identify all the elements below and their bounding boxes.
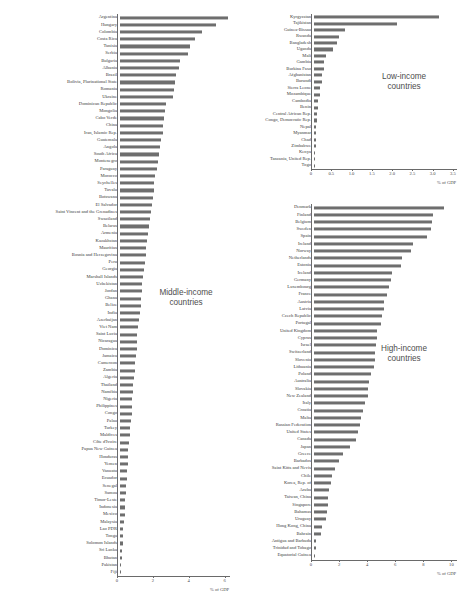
bar <box>314 264 401 267</box>
bar-track <box>314 277 460 284</box>
bar-track <box>120 194 233 201</box>
bar <box>120 499 126 502</box>
bar-category-label: Bosnia and Herzegovina <box>0 253 120 258</box>
bar-category-label: Swaziland <box>0 217 120 222</box>
bar-track <box>120 50 233 57</box>
bar-category-label: Mali <box>232 54 314 59</box>
bar <box>314 100 319 103</box>
bar-track <box>314 545 460 552</box>
bar-track <box>314 162 460 168</box>
bar-category-label: Mozambique <box>232 92 314 97</box>
bar-category-label: Palau <box>0 419 120 424</box>
bar-row: Peru <box>0 259 232 266</box>
bar-row: United Kingdom <box>232 327 463 334</box>
bar-category-label: Saint Vincent and the Grenadines <box>0 210 120 215</box>
bar-category-label: Ecuador <box>0 476 120 481</box>
x-axis-tick-label: 8 <box>422 563 424 568</box>
bar-category-label: Namibia <box>0 390 120 395</box>
bar <box>120 74 177 77</box>
bar <box>120 391 133 394</box>
bar-category-label: Austria <box>232 300 314 305</box>
bar-category-label: Sierra Leone <box>232 86 314 91</box>
bar-track <box>120 216 233 223</box>
bar-category-label: Seychelles <box>0 181 120 186</box>
bar <box>314 373 372 376</box>
bar-row: Aruba <box>232 487 463 494</box>
bar-row: India <box>0 309 232 316</box>
bar <box>120 405 133 408</box>
bar-row: Austria <box>232 298 463 305</box>
bar <box>120 527 124 530</box>
x-axis-tick-label: 6 <box>223 579 225 584</box>
bar-track <box>314 204 460 211</box>
bar-rows-high-income: DenmarkFinlandBelgiumSwedenSpainIrelandN… <box>232 204 463 560</box>
bar-row: Cyprus <box>232 335 463 342</box>
bar-row: Brazil <box>0 72 232 79</box>
bar-row: Guatemala <box>0 136 232 143</box>
bar-row: Georgia <box>0 266 232 273</box>
bar-row: Tonga <box>0 533 232 540</box>
bar-row: Pakistan <box>0 561 232 568</box>
bar-category-label: Spain <box>232 234 314 239</box>
bar <box>120 311 141 314</box>
bar-track <box>120 100 233 107</box>
bar-track <box>120 281 233 288</box>
bar <box>120 225 150 228</box>
bar-row: Portugal <box>232 320 463 327</box>
bar-track <box>120 129 233 136</box>
bar-category-label: Mongolia <box>0 109 120 114</box>
bar <box>314 453 343 456</box>
bar-category-label: Finland <box>232 213 314 218</box>
panel-title-middle-income: Middle-incomecountries <box>140 288 232 308</box>
bar <box>120 16 229 19</box>
y-axis-line-middle-income <box>117 14 118 576</box>
bar-track <box>314 407 460 414</box>
bar-category-label: Tonga <box>0 534 120 539</box>
bar-track <box>120 309 233 316</box>
bar-row: Hong Kong, China <box>232 523 463 530</box>
bar-row: Seychelles <box>0 180 232 187</box>
bar-category-label: Iran, Islamic Rep. <box>0 131 120 136</box>
bar <box>120 470 128 473</box>
bar-track <box>314 313 460 320</box>
bar-row: Mongolia <box>0 108 232 115</box>
bar-track <box>314 472 460 479</box>
panel-title-line-1: High-income <box>358 344 450 354</box>
bar-category-label: Myanmar <box>232 131 314 136</box>
bar-track <box>314 327 460 334</box>
bar <box>120 268 144 271</box>
bar <box>314 547 317 550</box>
bar-track <box>120 446 233 453</box>
x-axis-tick-label: 4 <box>188 579 190 584</box>
bar <box>120 383 134 386</box>
bar <box>120 556 122 559</box>
bar-category-label: Nigeria <box>0 397 120 402</box>
bar <box>120 549 123 552</box>
bar <box>120 535 124 538</box>
bar-category-label: Mauritius <box>0 246 120 251</box>
bar-track <box>120 151 233 158</box>
bar-track <box>120 374 233 381</box>
bar-category-label: Benin <box>232 105 314 110</box>
bar-category-label: Pakistan <box>0 563 120 568</box>
bar-category-label: New Zealand <box>232 394 314 399</box>
bar <box>314 206 445 209</box>
bar-category-label: Belarus <box>0 224 120 229</box>
bar <box>120 283 143 286</box>
bar-row: Indonesia <box>0 504 232 511</box>
bar-category-label: Albania <box>0 66 120 71</box>
bar-category-label: Uruguay <box>232 517 314 522</box>
bar-row: China <box>0 122 232 129</box>
bar <box>314 424 360 427</box>
bar <box>120 95 174 98</box>
bar-track <box>120 425 233 432</box>
bar-track <box>120 331 233 338</box>
bar-row: Uzbekistan <box>0 281 232 288</box>
bar-track <box>314 226 460 233</box>
bar-category-label: Sweden <box>232 227 314 232</box>
bar-row: Philippines <box>0 403 232 410</box>
bar-row: Greece <box>232 451 463 458</box>
bar-track <box>120 324 233 331</box>
bar-row: Tuvalu <box>0 187 232 194</box>
bar-track <box>314 364 460 371</box>
